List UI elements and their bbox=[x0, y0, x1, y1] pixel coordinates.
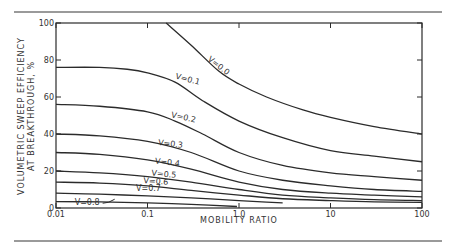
y-tick-label: 40 bbox=[44, 130, 54, 139]
y-axis-title: VOLUMETRIC SWEEP EFFICIENCY AT BREAKTHRO… bbox=[17, 37, 36, 195]
sweep-efficiency-chart: 0.010.11.010100 020406080100 V=0.0V=0.1V… bbox=[0, 0, 449, 244]
curve-label: V=0.0 bbox=[206, 54, 231, 76]
y-axis-title-line2: AT BREAKTHROUGH, % bbox=[27, 61, 36, 171]
curves bbox=[56, 23, 422, 207]
x-tick-label: 0.1 bbox=[141, 210, 154, 219]
curve-label: V=0.3 bbox=[158, 138, 184, 150]
y-tick-label: 100 bbox=[39, 19, 54, 28]
curve-label: V=0.4 bbox=[155, 157, 181, 169]
x-tick-label: 100 bbox=[414, 210, 429, 219]
plot-border bbox=[56, 23, 422, 208]
curve-V-0-2 bbox=[56, 104, 422, 180]
y-axis: 020406080100 bbox=[39, 19, 422, 213]
curve-label: V=0.2 bbox=[170, 111, 196, 125]
y-axis-title-line1: VOLUMETRIC SWEEP EFFICIENCY bbox=[17, 37, 26, 195]
y-tick-label: 60 bbox=[44, 93, 54, 102]
x-axis-title: MOBILITY RATIO bbox=[200, 216, 278, 225]
curve-label: V=0.8 bbox=[75, 198, 100, 207]
y-tick-label: 0 bbox=[49, 204, 54, 213]
y-tick-label: 80 bbox=[44, 56, 54, 65]
x-tick-label: 10 bbox=[325, 210, 335, 219]
curve-V-0-1 bbox=[56, 67, 422, 161]
curve-V-0-4 bbox=[56, 153, 422, 197]
y-tick-label: 20 bbox=[44, 167, 54, 176]
curve-label: V=0.7 bbox=[136, 184, 161, 193]
plot-frame bbox=[56, 23, 422, 208]
curve-V-0-0 bbox=[166, 23, 422, 134]
